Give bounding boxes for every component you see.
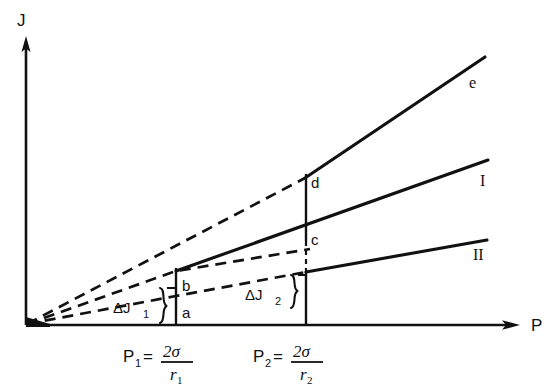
axes-group <box>22 36 521 330</box>
formula-p2-denominator: r <box>300 365 307 384</box>
delta-j2-group: ΔJ 2 <box>245 275 306 308</box>
formula-p1-group: P 1 = 2σ r 1 <box>123 342 193 386</box>
point-label-d: d <box>311 174 319 191</box>
formula-p1-variable: P <box>123 347 134 366</box>
delta-j2-brace <box>291 275 298 308</box>
formula-p1-equals: = <box>143 347 153 366</box>
point-label-c: c <box>311 231 319 248</box>
curve-e-line <box>305 57 485 178</box>
formula-p1-denominator-subscript: 1 <box>177 374 183 386</box>
figure-container: J P e I II a b c d <box>0 0 557 388</box>
curve-label-I: I <box>480 172 485 189</box>
curve-II-line <box>306 240 487 272</box>
dashed-rays-group <box>26 178 310 327</box>
delta-j2-subscript: 2 <box>275 295 281 307</box>
formula-p2-variable: P <box>253 347 264 366</box>
formula-p1-numerator: 2σ <box>163 342 181 361</box>
formula-p2-group: P 2 = 2σ r 2 <box>253 342 323 386</box>
curve-label-e: e <box>469 74 476 91</box>
formula-p2-numerator: 2σ <box>293 342 311 361</box>
curve-I-line <box>176 160 488 271</box>
solid-curves-group <box>176 57 488 272</box>
formula-p1-denominator: r <box>170 365 177 384</box>
y-axis-label: J <box>17 11 26 30</box>
delta-j1-brace <box>160 288 167 323</box>
formula-p1-subscript: 1 <box>135 357 141 369</box>
formula-p2-subscript: 2 <box>265 357 271 369</box>
formula-p2-denominator-subscript: 2 <box>307 374 313 386</box>
delta-j1-label: ΔJ <box>113 299 131 316</box>
dashed-ray-upper <box>27 178 305 324</box>
point-label-a: a <box>182 304 191 321</box>
formula-p2-equals: = <box>273 347 283 366</box>
delta-j2-label: ΔJ <box>245 286 263 303</box>
nucleation-rate-diagram: J P e I II a b c d <box>0 0 557 388</box>
curve-label-II: II <box>473 246 484 263</box>
dashed-ray-middle <box>27 249 310 324</box>
x-axis-label: P <box>531 316 542 335</box>
delta-j1-subscript: 1 <box>143 308 149 320</box>
dashed-ray-lower <box>27 272 306 324</box>
point-label-b: b <box>182 277 190 294</box>
delta-j1-group: ΔJ 1 <box>113 288 176 323</box>
